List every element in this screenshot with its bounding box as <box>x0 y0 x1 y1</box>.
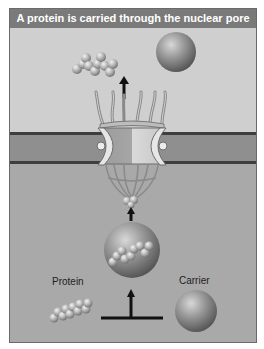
carrier-label: Carrier <box>179 275 210 286</box>
released-protein-chain <box>72 52 118 77</box>
carrier-protein-complex <box>104 222 160 278</box>
combine-arrow <box>101 289 163 318</box>
pore-top-ring <box>100 121 164 128</box>
nuclear-basket <box>106 165 158 198</box>
diagram-art <box>0 0 264 349</box>
protein-emerging <box>123 196 138 209</box>
nuclear-pore-complex <box>97 128 167 165</box>
released-carrier-sphere <box>156 32 196 72</box>
free-protein-chain <box>50 299 93 323</box>
protein-label: Protein <box>52 276 84 287</box>
arrow-up-middle <box>127 207 135 221</box>
free-carrier-sphere <box>175 290 217 332</box>
